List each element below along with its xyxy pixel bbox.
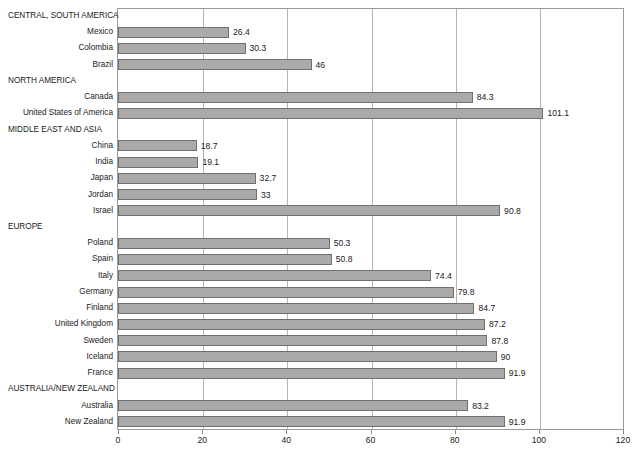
x-tick-label: 0 xyxy=(98,435,138,445)
category-label: New Zealand xyxy=(0,414,113,430)
category-label: Jordan xyxy=(0,187,113,203)
chart-bar-row: Italy74.4 xyxy=(0,268,642,284)
bar-value-label: 18.7 xyxy=(201,138,218,154)
bar-value-label: 79.8 xyxy=(458,284,475,300)
category-label: France xyxy=(0,365,113,381)
category-label: Mexico xyxy=(0,24,113,40)
bar-value-label: 19.1 xyxy=(202,154,219,170)
bar xyxy=(118,173,256,184)
chart-bar-row: Finland84.7 xyxy=(0,300,642,316)
bar-value-label: 30.3 xyxy=(250,40,267,56)
bar xyxy=(118,27,229,38)
chart-bar-row: Sweden87.8 xyxy=(0,333,642,349)
bar-value-label: 87.8 xyxy=(491,333,508,349)
x-tick-mark xyxy=(371,430,372,434)
bar xyxy=(118,351,497,362)
x-tick-label: 20 xyxy=(182,435,222,445)
chart-bar-row: Jordan33 xyxy=(0,187,642,203)
chart-bar-row: Israel90.8 xyxy=(0,203,642,219)
bar-value-label: 101.1 xyxy=(547,105,569,121)
bar xyxy=(118,335,487,346)
bar xyxy=(118,400,468,411)
bar-value-label: 91.9 xyxy=(509,365,526,381)
category-label: Italy xyxy=(0,268,113,284)
chart-bar-row: Colombia30.3 xyxy=(0,40,642,56)
bar-value-label: 46 xyxy=(316,57,326,73)
x-tick-label: 80 xyxy=(435,435,475,445)
chart-bar-row: United States of America101.1 xyxy=(0,105,642,121)
x-tick-mark xyxy=(455,430,456,434)
bar xyxy=(118,43,246,54)
bar xyxy=(118,416,505,427)
chart-group-row: AUSTRALIA/NEW ZEALAND xyxy=(0,381,642,397)
category-label: United Kingdom xyxy=(0,316,113,332)
bar-value-label: 26.4 xyxy=(233,24,250,40)
x-tick-mark xyxy=(623,430,624,434)
group-label: AUSTRALIA/NEW ZEALAND xyxy=(8,381,208,397)
chart-bar-row: France91.9 xyxy=(0,365,642,381)
bar-value-label: 83.2 xyxy=(472,398,489,414)
group-label: EUROPE xyxy=(8,219,208,235)
category-label: Australia xyxy=(0,398,113,414)
bar xyxy=(118,368,505,379)
bar-value-label: 91.9 xyxy=(509,414,526,430)
bar xyxy=(118,270,431,281)
x-axis: 020406080100120 xyxy=(0,430,642,451)
chart-bar-row: Germany79.8 xyxy=(0,284,642,300)
bar xyxy=(118,303,474,314)
bar-value-label: 84.3 xyxy=(477,89,494,105)
x-tick-label: 100 xyxy=(519,435,559,445)
x-tick-label: 40 xyxy=(266,435,306,445)
chart-rows: CENTRAL, SOUTH AMERICAMexico26.4Colombia… xyxy=(0,8,642,430)
bar-value-label: 50.8 xyxy=(336,251,353,267)
category-label: Poland xyxy=(0,235,113,251)
category-label: Japan xyxy=(0,170,113,186)
chart-group-row: NORTH AMERICA xyxy=(0,73,642,89)
chart-bar-row: Australia83.2 xyxy=(0,398,642,414)
chart-bar-row: Mexico26.4 xyxy=(0,24,642,40)
chart-bar-row: Japan32.7 xyxy=(0,170,642,186)
category-label: Iceland xyxy=(0,349,113,365)
bar xyxy=(118,205,500,216)
bar xyxy=(118,157,198,168)
group-label: NORTH AMERICA xyxy=(8,73,208,89)
category-label: Brazil xyxy=(0,57,113,73)
bar-value-label: 32.7 xyxy=(260,170,277,186)
bar xyxy=(118,59,312,70)
bar-chart: CENTRAL, SOUTH AMERICAMexico26.4Colombia… xyxy=(0,0,642,451)
bar xyxy=(118,238,330,249)
bar-value-label: 50.3 xyxy=(334,235,351,251)
bar xyxy=(118,140,197,151)
chart-bar-row: United Kingdom87.2 xyxy=(0,316,642,332)
category-label: Germany xyxy=(0,284,113,300)
bar xyxy=(118,319,485,330)
chart-bar-row: Brazil46 xyxy=(0,57,642,73)
category-label: Finland xyxy=(0,300,113,316)
chart-group-row: EUROPE xyxy=(0,219,642,235)
chart-group-row: MIDDLE EAST AND ASIA xyxy=(0,122,642,138)
category-label: Spain xyxy=(0,251,113,267)
category-label: Israel xyxy=(0,203,113,219)
x-tick-mark xyxy=(118,430,119,434)
bar-value-label: 84.7 xyxy=(478,300,495,316)
bar-value-label: 87.2 xyxy=(489,316,506,332)
chart-bar-row: Spain50.8 xyxy=(0,251,642,267)
chart-bar-row: India19.1 xyxy=(0,154,642,170)
chart-group-row: CENTRAL, SOUTH AMERICA xyxy=(0,8,642,24)
group-label: MIDDLE EAST AND ASIA xyxy=(8,122,208,138)
bar-value-label: 90.8 xyxy=(504,203,521,219)
category-label: China xyxy=(0,138,113,154)
category-label: Sweden xyxy=(0,333,113,349)
group-label: CENTRAL, SOUTH AMERICA xyxy=(8,8,208,24)
bar xyxy=(118,108,543,119)
x-tick-mark xyxy=(286,430,287,434)
bar-value-label: 74.4 xyxy=(435,268,452,284)
bar xyxy=(118,92,473,103)
bar xyxy=(118,189,257,200)
bar xyxy=(118,254,332,265)
category-label: Colombia xyxy=(0,40,113,56)
category-label: United States of America xyxy=(0,105,113,121)
chart-bar-row: China18.7 xyxy=(0,138,642,154)
chart-bar-row: Iceland90 xyxy=(0,349,642,365)
chart-bar-row: Poland50.3 xyxy=(0,235,642,251)
